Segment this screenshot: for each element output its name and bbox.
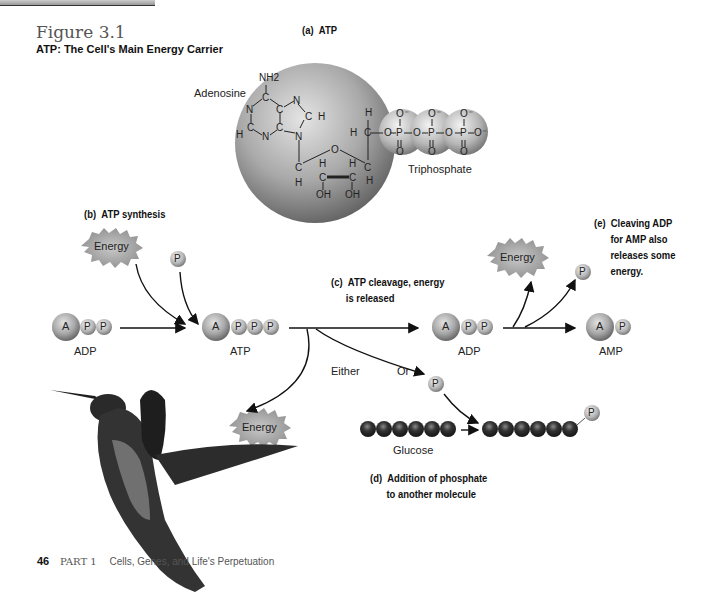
triphosphate-label: Triphosphate xyxy=(408,163,472,175)
glucose-label: Glucose xyxy=(393,444,433,456)
atom-n3: N xyxy=(262,131,269,142)
atom-c8: C xyxy=(349,172,356,183)
adenine-glyph: A xyxy=(62,320,69,332)
adenosine-sphere xyxy=(235,63,488,223)
part-label: PART 1 xyxy=(60,556,97,567)
glucose-chain xyxy=(360,421,456,437)
atom-h5: H xyxy=(349,158,356,169)
atom-p2: P xyxy=(428,127,435,138)
energy-label-release-bottom: Energy xyxy=(242,421,277,433)
atp-label: ATP xyxy=(230,345,251,357)
panel-d-caption: (d) Addition of phosphate to another mol… xyxy=(370,470,487,502)
atom-h7: H xyxy=(365,107,372,118)
atom-o-minus-2: O⁻ xyxy=(428,108,441,119)
atom-o-double-3: O xyxy=(460,146,468,157)
energy-label-synthesis: Energy xyxy=(94,240,129,252)
phosphate-glyph: P xyxy=(174,253,181,264)
atom-h4: H xyxy=(319,158,326,169)
atom-c4: C xyxy=(247,122,254,133)
atom-c7: C xyxy=(319,172,326,183)
panel-b-caption: (b) ATP synthesis xyxy=(84,206,165,222)
atom-h8: H xyxy=(350,127,357,138)
atom-c5: C xyxy=(276,122,283,133)
phosphate-glyph: P xyxy=(481,321,488,332)
amp-label: AMP xyxy=(599,345,623,357)
adp-right-label: ADP xyxy=(458,345,481,357)
atom-p3: P xyxy=(460,127,467,138)
atom-o1: O xyxy=(384,127,392,138)
atom-c10: C xyxy=(364,127,371,138)
atom-c9: C xyxy=(364,162,371,173)
atom-n4: N xyxy=(295,131,302,142)
atom-h2: H xyxy=(236,129,243,140)
phosphate-glyph: P xyxy=(465,321,472,332)
part-title: Cells, Genes, and Life's Perpetuation xyxy=(109,556,274,567)
phosphate-glyph: P xyxy=(235,321,242,332)
nh2-label: NH2 xyxy=(259,72,279,83)
phosphate-glyph: P xyxy=(619,321,626,332)
atom-c6: C xyxy=(295,162,302,173)
phosphate-glyph: P xyxy=(84,321,91,332)
atom-o-minus-1: O⁻ xyxy=(396,108,409,119)
atom-o2: O xyxy=(413,127,421,138)
atom-h3: H xyxy=(295,177,302,188)
panel-e-caption: (e) Cleaving ADP for AMP also releases s… xyxy=(594,215,675,279)
adenosine-label: Adenosine xyxy=(194,87,246,99)
phosphate-glyph: P xyxy=(579,266,586,277)
atom-o-double-2: O xyxy=(428,146,436,157)
atom-o3: O xyxy=(445,127,453,138)
adp-left-label: ADP xyxy=(74,345,97,357)
atom-c3: C xyxy=(305,111,312,122)
phosphate-glyph: P xyxy=(588,407,595,418)
phosphate-glyph: P xyxy=(267,321,274,332)
atom-h6: H xyxy=(366,175,373,186)
panel-a-caption: (a) ATP xyxy=(302,22,337,38)
adenine-glyph: A xyxy=(442,320,449,332)
page-footer: 46 PART 1 Cells, Genes, and Life's Perpe… xyxy=(37,555,274,567)
atom-o-minus-3: O⁻ xyxy=(460,108,473,119)
phosphate-glyph: P xyxy=(100,321,107,332)
atom-c1: C xyxy=(262,92,269,103)
either-label: Either xyxy=(331,365,360,377)
energy-label-release-right: Energy xyxy=(500,251,535,263)
adenine-glyph: A xyxy=(212,320,219,332)
atom-h1: H xyxy=(318,111,325,122)
page-number: 46 xyxy=(37,555,49,567)
atom-o-double-1: O xyxy=(396,146,404,157)
glucose-phosphate-chain xyxy=(482,418,585,437)
atom-oh1: OH xyxy=(316,189,331,200)
or-label: Or xyxy=(397,365,409,377)
adenine-glyph: A xyxy=(596,320,603,332)
panel-c-caption: (c) ATP cleavage, energy is released xyxy=(331,274,444,306)
atom-c2: C xyxy=(276,104,283,115)
atom-n2: N xyxy=(293,95,300,106)
atom-n1: N xyxy=(246,104,253,115)
atom-o-minus-end: O⁻ xyxy=(474,127,487,138)
atom-oh2: OH xyxy=(345,189,360,200)
phosphate-glyph: P xyxy=(432,378,439,389)
atom-o-ring: O xyxy=(331,144,339,155)
phosphate-glyph: P xyxy=(251,321,258,332)
atom-p1: P xyxy=(396,127,403,138)
